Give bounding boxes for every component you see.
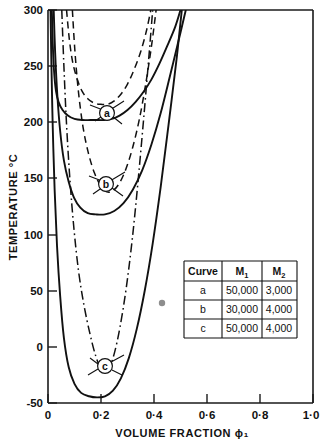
curve-label-c-text: c — [102, 360, 108, 372]
table-header-m1: M1 — [236, 265, 249, 280]
table-cell-m1-b: 30,000 — [226, 303, 258, 315]
curve-b-binodal — [54, 10, 186, 215]
table-cell-m2-a: 3,000 — [266, 284, 292, 296]
y-ticklabel-100: 100 — [24, 229, 43, 241]
table-header-curve: Curve — [188, 265, 218, 277]
x-ticklabel-1-0: 1·0 — [303, 409, 320, 421]
curve-label-a-text: a — [104, 107, 110, 119]
y-ticklabel-250: 250 — [24, 60, 43, 72]
y-axis-ticklabels: 300 250 200 150 100 50 0 -50 — [24, 4, 43, 409]
x-ticklabel-0: 0 — [45, 409, 51, 421]
table-row: c 50,000 4,000 — [200, 322, 292, 334]
x-ticklabel-0-4: 0·4 — [146, 409, 163, 421]
table-cell-curve-b: b — [200, 303, 206, 315]
table-cell-m1-c: 50,000 — [226, 322, 258, 334]
chart-svg: 300 250 200 150 100 50 0 -50 0 0·2 0·4 0… — [0, 0, 332, 446]
x-axis-ticklabels: 0 0·2 0·4 0·6 0·8 1·0 — [45, 409, 320, 421]
y-ticklabel-0: 0 — [37, 341, 43, 353]
y-ticklabel-200: 200 — [24, 116, 43, 128]
table-cell-curve-c: c — [200, 322, 205, 334]
curve-label-b-text: b — [103, 178, 109, 190]
table-cell-m1-a: 50,000 — [226, 284, 258, 296]
curve-c-binodal — [51, 10, 182, 397]
x-ticklabel-0-8: 0·8 — [252, 409, 269, 421]
y-ticklabel-300: 300 — [24, 4, 43, 16]
table-cell-m2-b: 4,000 — [266, 303, 292, 315]
y-axis-title: TEMPERATURE °C — [7, 154, 19, 261]
curve-a-spinodal — [67, 10, 151, 105]
plot-frame — [48, 10, 313, 403]
y-ticklabel-50: 50 — [30, 285, 43, 297]
dust-speck — [159, 300, 165, 306]
table-row: a 50,000 3,000 — [200, 284, 292, 296]
x-ticklabel-0-6: 0·6 — [199, 409, 216, 421]
y-ticklabel-150: 150 — [24, 172, 43, 184]
table-cell-m2-c: 4,000 — [266, 322, 292, 334]
curve-parameters-table: Curve M1 M2 a 50,000 3,000 b 30,000 4,00… — [184, 261, 297, 338]
table-cell-curve-a: a — [200, 284, 206, 296]
y-ticklabel-minus50: -50 — [26, 397, 43, 409]
x-axis-title: VOLUME FRACTION ϕ₁ — [115, 427, 249, 439]
curve-label-c-group: c — [88, 355, 124, 375]
curves-group — [51, 10, 186, 397]
phase-diagram-figure: 300 250 200 150 100 50 0 -50 0 0·2 0·4 0… — [0, 0, 332, 446]
table-row: b 30,000 4,000 — [200, 303, 292, 315]
table-header-m2: M2 — [273, 265, 286, 280]
x-ticklabel-0-2: 0·2 — [93, 409, 110, 421]
curve-a-binodal — [52, 10, 181, 120]
curve-label-a-group: a — [90, 101, 124, 124]
